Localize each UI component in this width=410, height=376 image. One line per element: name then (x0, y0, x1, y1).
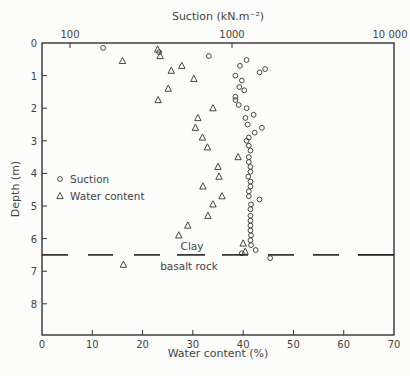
water-content-tick-label: 50 (287, 339, 300, 350)
suction-point (238, 63, 243, 68)
top-axis-title: Suction (kN.m⁻²) (172, 10, 264, 23)
suction-point (248, 213, 253, 218)
water-content-point (191, 75, 197, 81)
legend-circle-icon (58, 177, 63, 182)
suction-point (246, 160, 251, 165)
suction-point (249, 202, 254, 207)
suction-point (237, 85, 242, 90)
suction-point (253, 248, 258, 253)
suction-point (242, 88, 247, 93)
legend-label: Water content (70, 190, 145, 202)
suction-point (248, 164, 253, 169)
water-content-point (204, 144, 210, 150)
suction-tick-label: 1000 (219, 29, 244, 40)
water-content-point (219, 193, 225, 199)
depth-profile-chart: 012345678010203040506070100100010 000 Su… (0, 0, 410, 376)
depth-tick-label: 3 (31, 136, 37, 147)
suction-point (244, 58, 249, 63)
suction-point (260, 125, 265, 130)
suction-point (206, 54, 211, 59)
water-content-point (165, 85, 171, 91)
water-content-point (154, 46, 160, 52)
suction-point (101, 45, 106, 50)
water-content-point (185, 222, 191, 228)
data-points (101, 45, 273, 267)
water-content-tick-label: 10 (86, 339, 99, 350)
depth-tick-label: 7 (31, 266, 37, 277)
water-content-tick-label: 70 (388, 339, 401, 350)
water-content-point (192, 124, 198, 130)
annotation-clay: Clay (181, 240, 204, 252)
water-content-point (215, 163, 221, 169)
suction-point (248, 228, 253, 233)
suction-point (246, 143, 251, 148)
suction-point (257, 70, 262, 75)
water-content-point (216, 173, 222, 179)
suction-point (268, 256, 273, 261)
suction-point (243, 116, 248, 121)
water-content-point (119, 57, 125, 63)
suction-point (248, 148, 253, 153)
water-content-point (199, 134, 205, 140)
axis-ticks (42, 43, 344, 335)
suction-point (248, 179, 253, 184)
suction-point (249, 243, 254, 248)
suction-point (244, 106, 249, 111)
water-content-point (176, 232, 182, 238)
suction-point (248, 169, 253, 174)
suction-point (257, 197, 262, 202)
water-content-tick-label: 20 (136, 339, 149, 350)
suction-point (233, 98, 238, 103)
water-content-point (195, 114, 201, 120)
suction-point (252, 130, 257, 135)
suction-point (248, 207, 253, 212)
depth-tick-label: 4 (31, 168, 37, 179)
water-content-point (210, 201, 216, 207)
suction-point (245, 122, 250, 127)
water-content-point (168, 67, 174, 73)
suction-point (246, 174, 251, 179)
legend-label: Suction (70, 173, 109, 185)
water-content-point (210, 105, 216, 111)
legend: SuctionWater content (57, 173, 145, 202)
depth-tick-label: 8 (31, 299, 37, 310)
water-content-point (240, 240, 246, 246)
depth-tick-label: 5 (31, 201, 37, 212)
water-content-point (235, 154, 241, 160)
suction-tick-label: 100 (60, 29, 79, 40)
water-content-point (179, 62, 185, 68)
water-content-tick-label: 0 (39, 339, 45, 350)
suction-point (246, 189, 251, 194)
suction-point (246, 155, 251, 160)
depth-tick-label: 0 (31, 38, 37, 49)
suction-point (251, 112, 256, 117)
suction-point (263, 67, 268, 72)
suction-point (248, 184, 253, 189)
suction-point (249, 233, 254, 238)
suction-point (233, 73, 238, 78)
suction-point (248, 223, 253, 228)
suction-point (236, 103, 241, 108)
suction-point (246, 194, 251, 199)
bottom-axis-title: Water content (%) (168, 347, 269, 360)
depth-tick-label: 2 (31, 103, 37, 114)
water-content-point (155, 96, 161, 102)
legend-triangle-icon (57, 192, 63, 198)
annotation-basalt-rock: basalt rock (160, 260, 219, 272)
suction-point (239, 78, 244, 83)
water-content-point (157, 52, 163, 58)
depth-tick-label: 1 (31, 71, 37, 82)
suction-tick-label: 10 000 (373, 29, 408, 40)
suction-point (248, 218, 253, 223)
plot-frame (42, 43, 394, 335)
water-content-point (200, 183, 206, 189)
left-axis-title: Depth (m) (9, 161, 22, 217)
water-content-tick-label: 60 (337, 339, 350, 350)
suction-point (248, 238, 253, 243)
depth-tick-label: 6 (31, 234, 37, 245)
water-content-point (120, 261, 126, 267)
water-content-point (205, 212, 211, 218)
